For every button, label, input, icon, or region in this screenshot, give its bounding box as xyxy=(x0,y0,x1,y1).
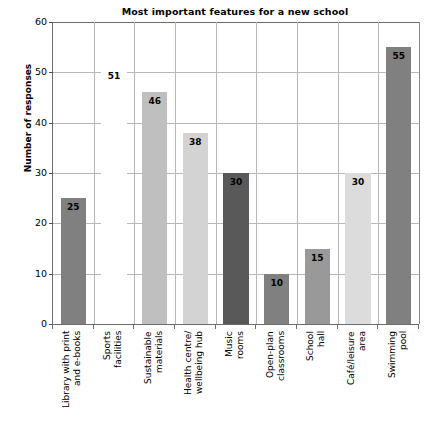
y-axis-tick xyxy=(49,123,53,124)
bar-value-label: 15 xyxy=(305,253,330,263)
y-axis-tick xyxy=(49,173,53,174)
x-axis-tick xyxy=(174,324,175,329)
y-axis-title: Number of responses xyxy=(23,33,33,203)
gridline-vertical xyxy=(94,22,95,324)
x-axis-tick xyxy=(133,324,134,329)
bar-value-label: 46 xyxy=(142,96,167,106)
y-axis-tick-label: 40 xyxy=(35,118,47,128)
bar-value-label: 10 xyxy=(264,278,289,288)
bar-value-label: 30 xyxy=(345,177,370,187)
x-axis-category-label: Music rooms xyxy=(224,331,245,431)
x-axis-tick xyxy=(255,324,256,329)
bar[interactable]: 30 xyxy=(223,173,248,324)
x-axis-category-label: School hall xyxy=(305,331,326,431)
bar[interactable]: 25 xyxy=(61,198,86,324)
x-axis-tick xyxy=(418,324,419,329)
y-axis-tick-label: 10 xyxy=(35,269,47,279)
y-axis-tick-label: 0 xyxy=(41,319,47,329)
x-axis-category-label: Café/leisure area xyxy=(346,331,367,431)
x-axis-tick xyxy=(215,324,216,329)
x-axis-category-label: Sustainable materials xyxy=(143,331,164,431)
y-axis-tick-label: 50 xyxy=(35,67,47,77)
chart-title: Most important features for a new school xyxy=(52,6,418,18)
bar[interactable]: 15 xyxy=(305,249,330,325)
x-axis-tick xyxy=(377,324,378,329)
x-axis-category-label: Sports facilities xyxy=(102,331,123,431)
y-axis-tick xyxy=(49,72,53,73)
bar[interactable]: 46 xyxy=(142,92,167,324)
y-axis-tick xyxy=(49,22,53,23)
bar[interactable]: 51 xyxy=(101,67,126,324)
x-axis-tick xyxy=(337,324,338,329)
bar-value-label: 51 xyxy=(101,71,126,81)
gridline-horizontal xyxy=(53,22,419,23)
gridline-vertical xyxy=(338,22,339,324)
gridline-vertical xyxy=(216,22,217,324)
bar[interactable]: 10 xyxy=(264,274,289,324)
y-axis-tick xyxy=(49,274,53,275)
bar-value-label: 25 xyxy=(61,202,86,212)
y-axis-tick-label: 30 xyxy=(35,168,47,178)
gridline-vertical xyxy=(297,22,298,324)
bar-value-label: 30 xyxy=(223,177,248,187)
x-axis-category-label: Swimming pool xyxy=(387,331,408,431)
bar-chart-figure: Most important features for a new school… xyxy=(0,0,437,433)
x-axis-tick xyxy=(296,324,297,329)
y-axis-tick xyxy=(49,223,53,224)
x-axis-category-label: Library with print and e-books xyxy=(61,331,82,431)
plot-area: 0102030405060255146383010153055 xyxy=(52,22,419,325)
y-axis-tick-label: 20 xyxy=(35,218,47,228)
gridline-vertical xyxy=(134,22,135,324)
x-axis-tick xyxy=(52,324,53,329)
gridline-vertical xyxy=(378,22,379,324)
gridline-vertical xyxy=(175,22,176,324)
bar-value-label: 38 xyxy=(183,137,208,147)
y-axis-tick-label: 60 xyxy=(35,17,47,27)
bar[interactable]: 38 xyxy=(183,133,208,324)
bar-value-label: 55 xyxy=(386,51,411,61)
gridline-vertical xyxy=(256,22,257,324)
x-axis-category-label: Open-plan classrooms xyxy=(265,331,286,431)
x-axis-tick xyxy=(93,324,94,329)
gridline-vertical xyxy=(419,22,420,324)
x-axis-category-label: Health centre/ wellbeing hub xyxy=(183,331,204,431)
bar[interactable]: 55 xyxy=(386,47,411,324)
bar[interactable]: 30 xyxy=(345,173,370,324)
